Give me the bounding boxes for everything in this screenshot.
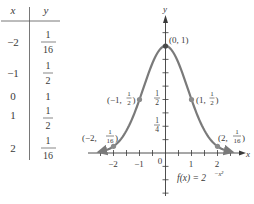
svg-text:1: 1 <box>108 128 112 136</box>
x-tick-label: 1 <box>189 159 194 169</box>
annotation-neg1: (−1, 1 2 ) <box>107 90 136 107</box>
svg-text:(2,: (2, <box>218 133 228 143</box>
svg-text:2: 2 <box>155 98 159 107</box>
x-tick-label: −1 <box>134 159 144 169</box>
function-label: f(x) = 2 −x² <box>177 170 224 184</box>
svg-text:1: 1 <box>210 90 214 98</box>
svg-text:(−1,: (−1, <box>107 95 122 105</box>
svg-text:16: 16 <box>107 137 115 145</box>
function-graph: y x −2 −1 0 1 2 1 2 1 4 (0, 1) (−1, 1 2 … <box>0 0 254 204</box>
x-tick-label: −2 <box>108 159 118 169</box>
svg-text:2: 2 <box>210 99 214 107</box>
data-point <box>189 97 194 102</box>
svg-text:4: 4 <box>155 125 159 134</box>
svg-text:(−2,: (−2, <box>82 133 97 143</box>
svg-text:16: 16 <box>234 137 242 145</box>
svg-text:−x²: −x² <box>214 170 224 177</box>
x-tick-label: 2 <box>215 159 220 169</box>
annotation-peak: (0, 1) <box>169 35 189 45</box>
svg-text:): ) <box>242 133 245 143</box>
annotation-neg2: (−2, 1 16 ) <box>82 128 118 145</box>
y-tick-label-quarter: 1 4 <box>154 116 160 134</box>
data-point <box>215 144 220 149</box>
annotation-pos1: (1, 1 2 ) <box>196 90 219 107</box>
data-point <box>163 43 168 48</box>
data-point <box>137 97 142 102</box>
svg-text:f(x) = 2: f(x) = 2 <box>177 173 206 184</box>
svg-text:(1,: (1, <box>196 95 206 105</box>
x-axis-arrow-icon <box>239 151 246 156</box>
svg-text:): ) <box>133 95 136 105</box>
svg-text:1: 1 <box>235 128 239 136</box>
svg-text:): ) <box>216 95 219 105</box>
annotation-pos2: (2, 1 16 ) <box>218 128 245 145</box>
x-axis-label: x <box>245 149 250 159</box>
svg-text:1: 1 <box>155 116 159 125</box>
svg-text:1: 1 <box>155 89 159 98</box>
x-tick-label: 0 <box>158 156 163 166</box>
y-axis-arrow-icon <box>163 15 168 23</box>
svg-text:): ) <box>115 133 118 143</box>
svg-text:1: 1 <box>127 90 131 98</box>
svg-text:2: 2 <box>127 99 131 107</box>
y-axis-label: y <box>162 4 167 14</box>
y-tick-label-half: 1 2 <box>154 89 160 107</box>
